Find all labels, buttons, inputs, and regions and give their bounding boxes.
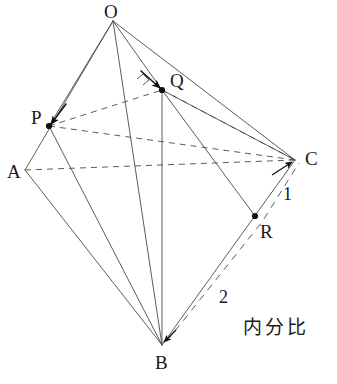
vertex-dot-q	[159, 87, 165, 93]
vertex-dot-p	[46, 123, 52, 129]
vertex-label-p: P	[31, 108, 42, 127]
edge-P-C-dashed	[49, 126, 295, 160]
vertex-dot-r	[252, 213, 258, 219]
edge-O-C	[113, 21, 295, 160]
edge-O-Q	[113, 21, 162, 90]
vertex-dot-group	[46, 87, 258, 219]
vertex-label-a: A	[7, 162, 21, 181]
diagram-canvas: OABCPQR12内分比	[0, 0, 337, 384]
vertex-label-c: C	[305, 149, 318, 168]
arrow-into-B	[164, 330, 176, 342]
edge-O-B	[113, 21, 162, 345]
vertex-label-b: B	[155, 353, 168, 372]
ratio-guide-B-R-C	[167, 163, 299, 341]
edge-A-C-dashed	[25, 160, 295, 170]
vertex-label-o: O	[104, 2, 118, 21]
vertex-label-r: R	[260, 222, 273, 241]
vertex-label-q: Q	[170, 71, 184, 90]
edge-P-Q-dashed	[49, 90, 162, 126]
edge-Q-R	[162, 90, 255, 216]
ratio-guide-group	[167, 163, 299, 341]
ratio-label-2: 2	[219, 288, 228, 306]
solid-edge-group	[25, 21, 295, 345]
annotation-arrow-group	[51, 71, 292, 342]
edge-O-P	[49, 21, 113, 126]
caption-naibunhi: 内分比	[243, 318, 309, 337]
edge-A-B	[25, 170, 162, 345]
ratio-label-1: 1	[283, 185, 292, 203]
